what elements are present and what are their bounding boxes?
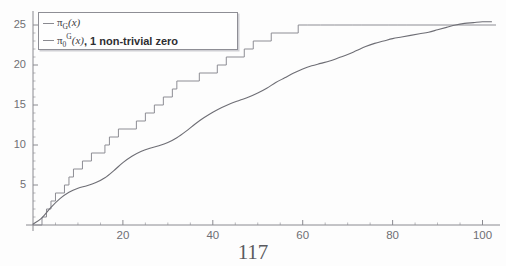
chart-legend: πG(x) π0G(x), 1 non-trivial zero xyxy=(38,12,238,50)
y-tick-label: 10 xyxy=(0,138,26,150)
legend-swatch-icon xyxy=(43,40,54,41)
legend-note-zeros: , 1 non-trivial zero xyxy=(84,35,178,47)
smooth-curve-pi-0-g xyxy=(33,22,492,224)
legend-swatch-icon xyxy=(43,23,54,24)
legend-label-pi-g: πG(x) xyxy=(57,16,80,31)
y-tick-label: 20 xyxy=(0,58,26,70)
legend-label-pi-0-g: π0G(x) xyxy=(57,32,84,49)
y-tick-label: 25 xyxy=(0,18,26,30)
y-tick-label: 5 xyxy=(0,178,26,190)
step-curve-group xyxy=(33,25,496,225)
y-tick-label: 15 xyxy=(0,98,26,110)
legend-item-pi-g: πG(x) xyxy=(39,15,237,32)
figure-page: 510152025 20406080100 πG(x) π0G(x), 1 no… xyxy=(0,0,506,266)
page-number: 117 xyxy=(0,240,506,265)
step-curve-pi-g xyxy=(33,25,496,225)
legend-item-pi-0-g: π0G(x), 1 non-trivial zero xyxy=(39,32,237,49)
smooth-curve-group xyxy=(33,22,492,224)
